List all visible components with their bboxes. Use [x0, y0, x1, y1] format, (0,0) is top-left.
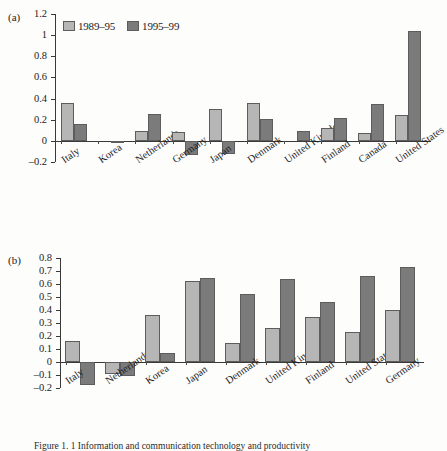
- y-tick-mark: [56, 362, 60, 363]
- y-tick-label: 0.5: [18, 292, 52, 303]
- bar-canada-series0: [358, 133, 371, 140]
- figure-caption: Figure 1. 1 Information and communicatio…: [34, 441, 432, 451]
- y-tick-label: 0: [13, 136, 47, 147]
- bar-japan-series1: [200, 278, 215, 363]
- x-tick-mark: [396, 141, 397, 144]
- y-tick-mark: [56, 258, 60, 259]
- bar-japan-series0: [185, 281, 200, 362]
- y-tick-mark: [56, 349, 60, 350]
- bar-denmark-series1: [240, 294, 255, 362]
- x-tick-mark: [359, 141, 360, 144]
- y-tick-label: 0.4: [13, 93, 47, 104]
- y-tick-label: –0.2: [13, 157, 47, 168]
- x-tick-mark: [146, 362, 147, 365]
- bar-germany-series0: [172, 132, 185, 140]
- x-tick-mark: [306, 362, 307, 365]
- chart-panel-b: (b) –0.2–0.100.10.20.30.40.50.60.70.8Ita…: [0, 232, 438, 451]
- y-tick-label: 0.2: [13, 114, 47, 125]
- bar-united-kingdom-series0: [265, 328, 280, 362]
- bar-united-states-series0: [395, 115, 408, 140]
- x-tick-mark: [284, 141, 285, 144]
- x-axis-label-korea: Korea: [144, 363, 171, 386]
- y-tick-label: –0.1: [18, 370, 52, 381]
- y-tick-mark: [56, 388, 60, 389]
- bar-germany-series0: [385, 310, 400, 362]
- legend-swatch-icon-0: [63, 21, 75, 31]
- bar-finland-series0: [305, 317, 320, 363]
- y-tick-label: 0.6: [13, 72, 47, 83]
- bar-japan-series0: [209, 109, 222, 141]
- bar-italy-series0: [61, 103, 74, 141]
- x-axis-label-japan: Japan: [208, 143, 234, 165]
- x-tick-mark: [386, 362, 387, 365]
- x-axis-label-finland: Finland: [304, 360, 336, 387]
- y-tick-mark: [51, 162, 55, 163]
- y-tick-mark: [56, 297, 60, 298]
- y-tick-mark: [51, 35, 55, 36]
- bar-korea-series0: [145, 315, 160, 362]
- x-axis-label-finland: Finland: [320, 138, 352, 165]
- legend-item-1[interactable]: 1995–99: [127, 20, 179, 32]
- y-tick-label: 0.3: [18, 318, 52, 329]
- bar-finland-series0: [321, 128, 334, 141]
- y-tick-label: 0.6: [18, 279, 52, 290]
- bar-united-states-series1: [360, 276, 375, 362]
- plot-area-b: –0.2–0.100.10.20.30.40.50.60.70.8ItalyNe…: [60, 258, 420, 388]
- x-tick-mark: [226, 362, 227, 365]
- x-tick-mark: [135, 141, 136, 144]
- y-tick-label: 0.8: [13, 51, 47, 62]
- y-axis-line-b: [60, 258, 61, 388]
- y-axis-line-a: [55, 14, 56, 162]
- x-axis-label-italy: Italy: [60, 146, 82, 166]
- x-axis-label-japan: Japan: [184, 364, 210, 386]
- x-tick-mark: [173, 141, 174, 144]
- plot-area-a: –0.200.20.40.60.811.2ItalyKoreaNetherlan…: [55, 14, 427, 162]
- x-tick-mark: [186, 362, 187, 365]
- y-tick-mark: [51, 14, 55, 15]
- legend-label-0: 1989–95: [78, 20, 115, 32]
- bar-united-kingdom-series1: [280, 279, 295, 362]
- bar-germany-series1: [400, 267, 415, 362]
- bar-netherlands-series0: [135, 131, 148, 141]
- y-tick-mark: [56, 375, 60, 376]
- x-tick-mark: [210, 141, 211, 144]
- y-tick-mark: [56, 323, 60, 324]
- bar-denmark-series0: [247, 103, 260, 141]
- legend-swatch-icon-1: [127, 21, 139, 31]
- chart-legend: 1989–951995–99: [63, 20, 179, 32]
- x-tick-mark: [247, 141, 248, 144]
- x-tick-mark: [321, 141, 322, 144]
- chart-panel-a: (a) –0.200.20.40.60.811.2ItalyKoreaNethe…: [0, 0, 438, 232]
- y-tick-mark: [51, 99, 55, 100]
- bar-korea-series1: [160, 353, 175, 362]
- y-tick-label: 0.7: [18, 266, 52, 277]
- x-axis-label-korea: Korea: [97, 142, 124, 165]
- legend-label-1: 1995–99: [142, 20, 179, 32]
- bar-canada-series1: [371, 104, 384, 141]
- x-tick-mark: [346, 362, 347, 365]
- y-tick-mark: [51, 56, 55, 57]
- bar-united-states-series0: [345, 332, 360, 362]
- y-tick-label: 0.1: [18, 344, 52, 355]
- x-tick-mark: [98, 141, 99, 144]
- bar-finland-series1: [320, 302, 335, 362]
- legend-item-0[interactable]: 1989–95: [63, 20, 115, 32]
- bar-italy-series0: [65, 341, 80, 362]
- y-tick-mark: [56, 271, 60, 272]
- y-tick-label: 0.4: [18, 305, 52, 316]
- y-tick-mark: [51, 120, 55, 121]
- x-tick-mark: [66, 362, 67, 365]
- y-tick-mark: [56, 336, 60, 337]
- y-tick-mark: [51, 77, 55, 78]
- y-tick-mark: [51, 141, 55, 142]
- y-tick-label: 1: [13, 30, 47, 41]
- bar-united-states-series1: [408, 31, 421, 141]
- y-tick-label: 0: [18, 357, 52, 368]
- y-tick-label: 0.8: [18, 253, 52, 264]
- x-axis-label-canada: Canada: [357, 139, 389, 166]
- y-tick-mark: [56, 284, 60, 285]
- y-tick-label: –0.2: [18, 383, 52, 394]
- y-tick-label: 0.2: [18, 331, 52, 342]
- bar-denmark-series0: [225, 343, 240, 363]
- y-tick-label: 1.2: [13, 9, 47, 20]
